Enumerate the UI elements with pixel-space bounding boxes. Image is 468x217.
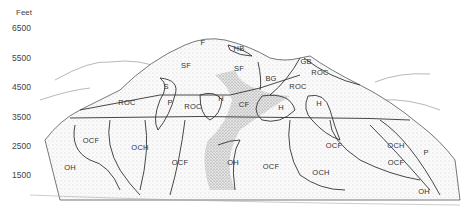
elevation-tick: 2500 bbox=[12, 141, 31, 151]
zone-label: F bbox=[201, 38, 206, 47]
zone-label: CF bbox=[239, 100, 249, 109]
elevation-axis-title: Feet bbox=[16, 8, 32, 17]
elevation-tick: 5500 bbox=[12, 53, 31, 63]
zone-label: HB bbox=[234, 44, 245, 53]
zone-label: SF bbox=[181, 61, 191, 70]
mountain-vegetation-diagram bbox=[0, 0, 468, 217]
elevation-tick: 3500 bbox=[12, 112, 31, 122]
zone-label: BG bbox=[265, 74, 276, 83]
zone-label: H bbox=[278, 103, 284, 112]
zone-label: OCH bbox=[312, 168, 329, 177]
zone-label: OCH bbox=[131, 143, 148, 152]
zone-label: OH bbox=[227, 158, 239, 167]
elevation-tick: 4500 bbox=[12, 82, 31, 92]
zone-label: OCF bbox=[263, 162, 279, 171]
zone-label: P bbox=[423, 148, 428, 157]
zone-label: OCF bbox=[326, 141, 342, 150]
zone-label: OCH bbox=[387, 141, 404, 150]
elevation-tick: 1500 bbox=[12, 170, 31, 180]
zone-label: ROC bbox=[118, 98, 135, 107]
zone-label: OCF bbox=[388, 158, 404, 167]
zone-label: ROC bbox=[311, 68, 328, 77]
zone-label: ROC bbox=[184, 102, 201, 111]
zone-label: GB bbox=[300, 57, 311, 66]
zone-label: H bbox=[218, 94, 224, 103]
zone-label: OH bbox=[418, 187, 430, 196]
zone-label: OH bbox=[64, 163, 76, 172]
zone-label: ROC bbox=[289, 82, 306, 91]
zone-label: P bbox=[167, 98, 172, 107]
zone-label: S bbox=[163, 82, 168, 91]
elevation-tick: 6500 bbox=[12, 23, 31, 33]
zone-label: H bbox=[316, 99, 322, 108]
zone-label: OCF bbox=[83, 136, 99, 145]
zone-label: SF bbox=[234, 64, 244, 73]
zone-label: OCF bbox=[172, 158, 188, 167]
